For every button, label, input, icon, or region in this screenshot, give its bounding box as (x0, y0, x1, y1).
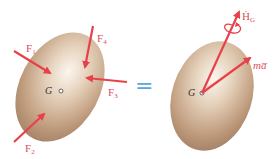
force-f4-label: F4 (97, 33, 107, 46)
right-rigid-body (157, 30, 268, 159)
equals-sign: = (135, 75, 153, 97)
left-center-of-mass (59, 89, 63, 93)
left-center-label: G (45, 86, 52, 96)
angular-momentum-rate-label: ḢG (242, 11, 255, 24)
force-f2-label: F2 (25, 143, 35, 156)
right-center-label: G (188, 88, 195, 98)
force-f1-label: F1 (26, 43, 36, 56)
force-f3-label: F3 (108, 87, 118, 100)
ma-bar-label: ma̅ (253, 60, 266, 71)
